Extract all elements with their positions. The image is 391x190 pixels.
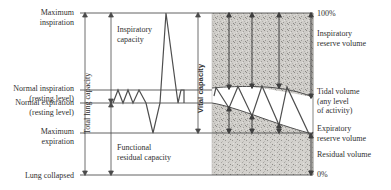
spirogram-figure: Maximum inspiration Normal inspiration (… — [0, 0, 391, 190]
label-maximum-expiration: Maximum expiration — [2, 127, 74, 146]
label-tidal-volume: Tidal volume (any level of activity) — [317, 87, 360, 116]
label-inspiratory-capacity: Inspiratory capacity — [117, 25, 152, 44]
label-total-lung-capacity: Total lung capacity — [83, 73, 92, 134]
label-bottom-percent: 0% — [317, 170, 328, 180]
label-lung-collapsed: Lung collapsed — [2, 171, 74, 181]
label-expiratory-reserve-volume: Expiratory reserve volume — [317, 124, 366, 143]
label-top-percent: 100% — [317, 9, 336, 19]
label-functional-residual-capacity: Functional residual capacity — [117, 143, 171, 162]
label-vital-capacity: Vital capacity — [196, 64, 205, 113]
functional-residual-capacity-arrow — [109, 103, 114, 176]
residual-volume-shading — [212, 133, 313, 175]
label-inspiratory-reserve-volume: Inspiratory reserve volume — [317, 29, 366, 48]
label-maximum-inspiration: Maximum inspiration — [2, 8, 74, 27]
label-residual-volume: Residual volume — [317, 150, 371, 160]
inspiratory-reserve-shading — [212, 13, 313, 97]
label-normal-expiration: Normal expiration (resting level) — [0, 98, 74, 117]
